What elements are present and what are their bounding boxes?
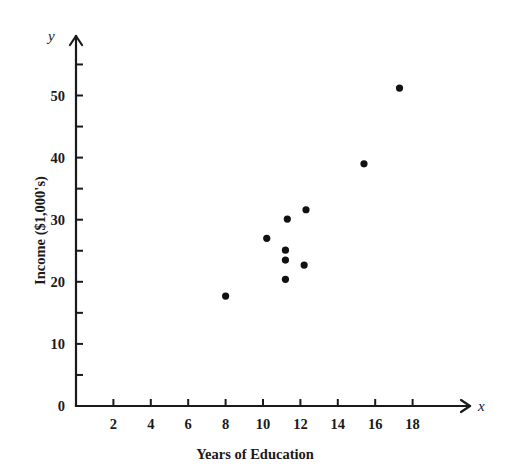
data-points-group <box>222 84 403 299</box>
data-point <box>284 215 291 222</box>
data-point <box>396 84 403 91</box>
x-axis-tick-label: 14 <box>318 417 358 432</box>
y-axis-tick-label: 50 <box>20 89 65 104</box>
data-point <box>282 276 289 283</box>
y-axis-variable-name: y <box>48 29 55 44</box>
x-axis-tick-label: 8 <box>206 417 246 432</box>
axes-group <box>70 36 470 412</box>
data-point <box>282 256 289 263</box>
data-point <box>222 292 229 299</box>
x-axis-tick-label: 10 <box>243 417 283 432</box>
x-axis-tick-label: 4 <box>131 417 171 432</box>
data-point <box>360 160 367 167</box>
origin-tick-label: 0 <box>20 399 65 414</box>
x-axis-tick-label: 6 <box>168 417 208 432</box>
x-axis-tick-label: 16 <box>355 417 395 432</box>
x-axis-tick-label: 18 <box>393 417 433 432</box>
data-point <box>302 206 309 213</box>
y-axis-tick-label: 10 <box>20 337 65 352</box>
data-point <box>301 261 308 268</box>
data-point <box>282 247 289 254</box>
y-axis-title: Income ($1,000's) <box>32 131 49 331</box>
x-axis-tick-label: 2 <box>93 417 133 432</box>
x-axis-variable-name: x <box>478 399 485 414</box>
ticks-group <box>76 64 413 406</box>
scatter-plot-figure: 24681012141618 01020304050 x y Years of … <box>0 0 510 474</box>
x-axis-tick-label: 12 <box>280 417 320 432</box>
plot-canvas <box>0 0 510 474</box>
x-axis-title: Years of Education <box>0 446 510 463</box>
data-point <box>263 235 270 242</box>
